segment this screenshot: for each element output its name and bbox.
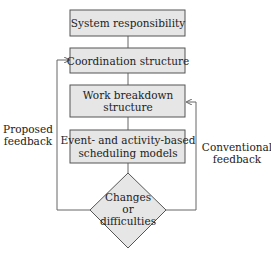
- box-scheduling-models: Event- and activity-based scheduling mod…: [61, 130, 196, 163]
- box-label-line-1: Work breakdown: [83, 89, 174, 101]
- decision-label-line-1: Changes: [105, 191, 151, 203]
- box-label-line-2: structure: [103, 101, 153, 113]
- box-label-line-1: Event- and activity-based: [61, 134, 196, 146]
- svg-text:feedback: feedback: [4, 135, 53, 147]
- conventional-feedback-label: Conventional feedback: [202, 141, 271, 165]
- proposed-feedback-label: Proposed feedback: [3, 123, 53, 147]
- box-coordination-structure: Coordination structure: [67, 48, 189, 73]
- decision-label-line-3: difficulties: [100, 215, 156, 227]
- box-label: System responsibility: [71, 17, 185, 29]
- svg-text:Conventional: Conventional: [202, 141, 271, 153]
- decision-label-line-2: or: [122, 203, 134, 215]
- svg-text:feedback: feedback: [213, 153, 262, 165]
- svg-text:Proposed: Proposed: [3, 123, 53, 135]
- decision-changes-or-difficulties: Changes or difficulties: [90, 173, 166, 248]
- box-label: Coordination structure: [67, 55, 189, 67]
- box-system-responsibility: System responsibility: [70, 10, 185, 36]
- flowchart: System responsibility Coordination struc…: [0, 0, 271, 260]
- box-work-breakdown-structure: Work breakdown structure: [70, 85, 185, 117]
- box-label-line-2: scheduling models: [78, 147, 177, 159]
